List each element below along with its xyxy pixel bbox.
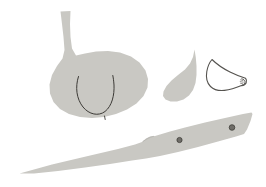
- knife-rivet-back-dot: [229, 125, 235, 131]
- knife-rivet-front-dot: [177, 137, 182, 142]
- illustration-canvas: Line illustration: garlic bulb, two clov…: [0, 0, 266, 187]
- illustration-scene: [0, 0, 266, 187]
